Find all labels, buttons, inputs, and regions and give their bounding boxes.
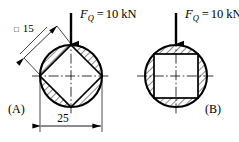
panel-a-force-unit: kN bbox=[121, 7, 136, 21]
panel-b-force-symbol: F bbox=[184, 7, 193, 21]
panel-b-label: (B) bbox=[205, 102, 221, 116]
panel-a: FQ=10kN □15 25 (A) bbox=[8, 7, 137, 132]
panel-b-force-unit: kN bbox=[226, 7, 239, 21]
panel-a-force-label: FQ=10kN bbox=[79, 7, 137, 23]
panel-b-force-value: 10 bbox=[211, 7, 224, 21]
panel-a-inner-dim-extension-lower bbox=[24, 58, 41, 76]
panel-b: FQ=10kN (B) bbox=[137, 7, 239, 116]
panel-a-inner-dim-label: □15 bbox=[14, 22, 34, 34]
panel-a-force-equals: = bbox=[97, 7, 104, 21]
panel-a-force-subscript: Q bbox=[88, 13, 94, 23]
panel-a-label: (A) bbox=[8, 102, 25, 116]
panel-b-force-equals: = bbox=[202, 7, 209, 21]
square-symbol-icon: □ bbox=[14, 25, 19, 34]
panel-a-outer-dim-label: 25 bbox=[57, 112, 69, 124]
engineering-figure: FQ=10kN □15 25 (A) bbox=[0, 0, 239, 142]
figure-canvas: FQ=10kN □15 25 (A) bbox=[0, 0, 239, 142]
panel-a-force-value: 10 bbox=[106, 7, 119, 21]
panel-b-force-label: FQ=10kN bbox=[184, 7, 239, 23]
panel-a-force-symbol: F bbox=[79, 7, 88, 21]
panel-a-inner-dim-value: 15 bbox=[23, 22, 35, 34]
panel-a-inner-dim-extension-apex bbox=[57, 26, 71, 44]
panel-b-force-subscript: Q bbox=[193, 13, 199, 23]
